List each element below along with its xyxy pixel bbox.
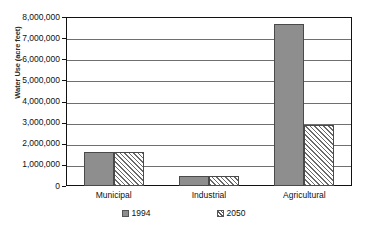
bar-industrial-2050 <box>209 176 239 186</box>
bars-layer <box>66 17 352 186</box>
solid-gray-swatch <box>122 210 129 217</box>
y-axis-tick-label: 2,000,000 <box>0 138 60 148</box>
legend-label: 2050 <box>227 208 246 218</box>
y-axis-tick-label: 8,000,000 <box>0 12 60 22</box>
x-axis-label-municipal: Municipal <box>64 190 164 200</box>
y-axis-tick-label: 5,000,000 <box>0 75 60 85</box>
legend-label: 1994 <box>132 208 151 218</box>
x-axis-label-industrial: Industrial <box>159 190 259 200</box>
hatched-swatch <box>217 210 224 217</box>
y-axis-tick-label: 0 <box>0 181 60 191</box>
x-axis-label-agricultural: Agricultural <box>254 190 354 200</box>
y-axis-tick-label: 6,000,000 <box>0 54 60 64</box>
bar-agricultural-1994 <box>274 24 304 186</box>
bar-municipal-2050 <box>114 152 144 186</box>
legend-item-2050: 2050 <box>217 208 246 218</box>
bar-agricultural-2050 <box>304 125 334 186</box>
y-axis-tick-label: 7,000,000 <box>0 33 60 43</box>
legend-item-1994: 1994 <box>122 208 151 218</box>
bar-industrial-1994 <box>179 176 209 186</box>
bar-chart: Water Use (acre feet) 01,000,0002,000,00… <box>0 0 367 228</box>
y-axis-tick-label: 1,000,000 <box>0 159 60 169</box>
bar-municipal-1994 <box>84 152 114 186</box>
y-axis-tick-label: 3,000,000 <box>0 117 60 127</box>
y-axis-tick <box>62 186 66 187</box>
y-axis-tick-label: 4,000,000 <box>0 96 60 106</box>
chart-legend: 19942050 <box>0 208 367 218</box>
